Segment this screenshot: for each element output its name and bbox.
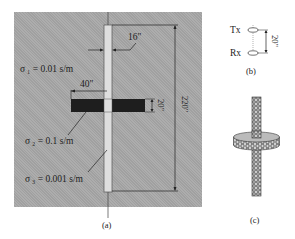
receiver-coil [248,51,258,55]
transmitter-coil [248,28,258,32]
mesh-tool-lower [252,146,261,196]
tx-label: Tx [230,26,241,36]
sigma1-label: σ ₁ = 0.01 s/m [20,65,73,75]
layer-half-width-label: 40" [80,80,93,90]
caption-b: (b) [246,66,256,76]
coil-spacing-label: 20" [270,35,279,47]
layer-thickness-label: 20" [156,99,165,111]
diagram-graphics [0,0,295,239]
rx-label: Rx [230,49,241,59]
borehole-diameter-label: 16" [128,33,141,43]
caption-a: (a) [102,220,111,230]
total-height-label: 220" [180,96,189,112]
mesh-tool-upper [252,97,261,135]
sigma2-label: σ ₂ = 0.1 s/m [25,137,73,147]
caption-c: (c) [250,215,259,225]
sigma3-label: σ ₃ = 0.001 s/m [25,175,83,185]
